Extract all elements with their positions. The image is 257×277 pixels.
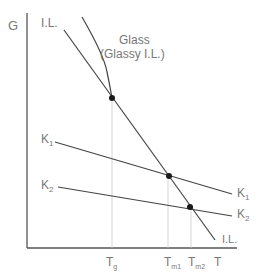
tm2-intersection-point xyxy=(187,204,193,210)
k1-right-label: K1 xyxy=(237,186,250,202)
tm1-intersection-point xyxy=(166,173,172,179)
k1-left-label: K1 xyxy=(41,132,54,148)
il-top-label: I.L. xyxy=(41,16,58,30)
k2-line xyxy=(58,187,232,216)
gibbs-energy-temperature-diagram: G T I.L. Glass (Glassy I.L.) K1 K2 K1 K2… xyxy=(0,0,257,277)
tg-intersection-point xyxy=(109,95,115,101)
il-bottom-label: I.L. xyxy=(222,233,237,245)
k2-left-label: K2 xyxy=(41,178,54,194)
tg-tick-label: Tg xyxy=(106,255,117,271)
y-axis-label: G xyxy=(8,18,18,33)
k1-line xyxy=(55,142,232,194)
glassy-il-label: (Glassy I.L.) xyxy=(100,47,165,61)
tm1-tick-label: Tm1 xyxy=(164,255,181,270)
glass-label: Glass xyxy=(119,33,150,47)
k2-right-label: K2 xyxy=(237,207,250,223)
x-axis-label: T xyxy=(214,255,222,269)
tm2-tick-label: Tm2 xyxy=(188,255,205,270)
